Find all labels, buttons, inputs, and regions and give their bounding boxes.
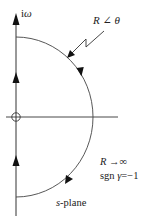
plane-label: s-plane — [56, 198, 86, 209]
sign-gamma-condition: sgn γ=−1 — [100, 171, 138, 182]
arc-label-leader-line — [71, 31, 104, 54]
radius-limit-condition: R →∞ — [100, 157, 127, 168]
arc-direction-arrow-icon — [65, 175, 73, 184]
s-plane-diagram — [0, 0, 151, 223]
imaginary-axis-label: iω — [21, 8, 32, 19]
imaginary-axis-arrowhead-icon — [13, 13, 20, 25]
axis-direction-arrow-icon — [13, 155, 20, 166]
arc-radius-angle-label: R ∠ θ — [93, 15, 120, 26]
axis-direction-arrow-icon — [13, 72, 20, 83]
